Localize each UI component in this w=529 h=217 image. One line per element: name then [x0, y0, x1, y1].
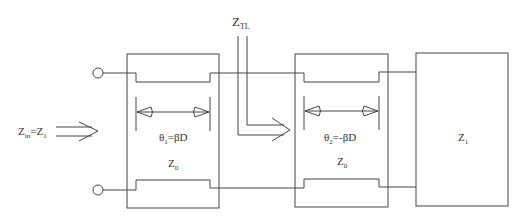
theta2-label: θ2=-βD [324, 131, 356, 146]
input-terminal-top [93, 68, 103, 78]
zin-label: Zin=Z1 [18, 125, 47, 140]
z0-right-label: Z0 [337, 155, 348, 170]
input-terminal-bottom [93, 185, 103, 195]
ztl-label: ZTL [232, 14, 250, 31]
theta1-label: θ1=βD [159, 131, 188, 146]
load-label: Z1 [458, 131, 469, 146]
network-diagram: ZTL Zin=Z1 θ1=βD Z0 θ2=-βD Z0 Z1 [0, 0, 529, 217]
input-impedance-arrow [56, 122, 98, 141]
top-conductor [103, 72, 416, 82]
z0-left-label: Z0 [168, 157, 179, 172]
load-box [416, 53, 508, 206]
bottom-conductor [103, 179, 416, 190]
ztl-arrow [238, 36, 290, 141]
